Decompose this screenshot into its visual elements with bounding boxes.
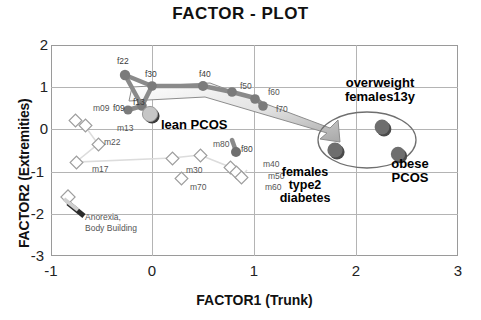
- anorexia-marker: [64, 199, 84, 216]
- annotation-obese-line2: PCOS: [391, 171, 429, 185]
- lean-pcos-marker: [142, 106, 159, 123]
- point-label-m13: m13: [117, 124, 134, 133]
- point-label-f60: f60: [268, 88, 280, 97]
- point-label-f13: f13: [133, 98, 145, 107]
- point-label-f50: f50: [240, 82, 252, 91]
- point-label-m80: m80: [213, 140, 230, 149]
- point-label-f22: f22: [117, 57, 129, 66]
- annotation-females-type2-diabetes: females type2 diabetes: [280, 166, 331, 205]
- point-label-m70: m70: [190, 183, 207, 192]
- point-label-m17: m17: [92, 165, 109, 174]
- point-label-m22: m22: [104, 138, 121, 147]
- point-label-m09: m09: [93, 104, 110, 113]
- point-label-f30: f30: [145, 70, 157, 79]
- annotation-anorexia-body-building: Anorexia, Body Building: [85, 212, 137, 233]
- point-label-f40: f40: [199, 70, 211, 79]
- annotation-overweight-line1: overweight: [345, 76, 415, 90]
- factor-plot-figure: FACTOR - PLOT 2 1 0 -1 -2 -3 -1 0 1 2 3 …: [0, 0, 481, 320]
- point-label-m30: m30: [186, 166, 203, 175]
- point-label-f80: f80: [241, 145, 253, 154]
- annotation-obese-pcos: obese PCOS: [391, 157, 429, 184]
- annotation-anorexia-line1: Anorexia,: [85, 212, 137, 223]
- point-label-f70: f70: [276, 105, 288, 114]
- point-label-m40: m40: [263, 160, 280, 169]
- point-label-f09: f09: [113, 104, 125, 113]
- annotation-overweight-females: overweight females13y: [345, 76, 415, 103]
- annotation-anorexia-line2: Body Building: [85, 223, 137, 234]
- annotation-t2d-line3: diabetes: [280, 192, 331, 205]
- annotation-lean-pcos: lean PCOS: [161, 118, 227, 132]
- annotation-obese-line1: obese: [391, 157, 429, 171]
- annotation-overweight-line2: females13y: [345, 90, 415, 104]
